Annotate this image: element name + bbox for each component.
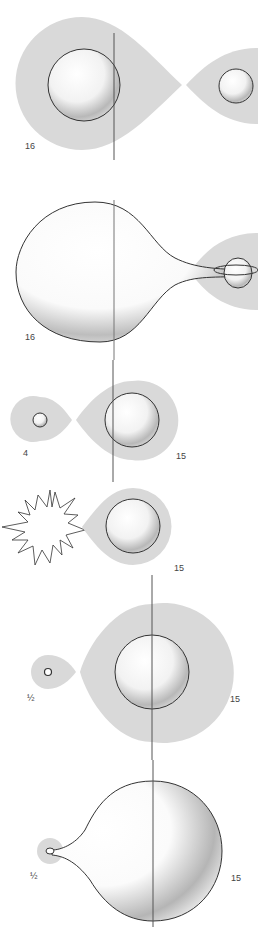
panel-6 [37,760,222,927]
mass-label-panel-6-secondary: 15 [231,873,241,883]
expanded-massive-star-envelope [52,781,222,921]
panel-4 [2,488,172,565]
mass-label-panel-6-primary: ½ [30,871,38,881]
primary-star [48,49,120,121]
panel-3 [10,360,178,482]
compact-object [46,848,54,854]
mass-label-panel-3-secondary: 15 [176,451,186,461]
mass-label-panel-4-secondary: 15 [174,563,184,573]
mass-label-panel-1: 16 [25,141,35,151]
expanded-primary-envelope [16,202,248,342]
secondary-star [219,69,253,103]
secondary-star [224,258,252,288]
mass-label-panel-3-primary: 4 [23,448,28,458]
mass-label-panel-5-secondary: 15 [230,694,240,704]
panel-5 [31,575,234,760]
panel-1 [16,17,258,160]
primary-remnant [33,413,47,427]
mass-label-panel-5-primary: ½ [27,693,35,703]
binary-evolution-diagram [0,0,258,927]
secondary-star [106,499,160,553]
compact-object [45,669,52,676]
panel-2 [16,200,258,360]
mass-label-panel-2: 16 [25,332,35,342]
roche-lobe-compact [31,655,76,689]
supernova-burst [2,490,85,565]
